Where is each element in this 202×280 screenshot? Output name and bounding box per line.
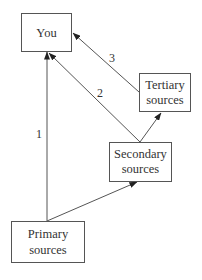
edge-secondary-to-you: 2 <box>49 53 140 142</box>
edge-label-3: 3 <box>109 51 115 65</box>
node-primary-label-line1: Primary <box>28 227 69 241</box>
node-tertiary-sources: Tertiary sources <box>140 74 191 112</box>
edge-secondary-to-tertiary <box>140 113 161 142</box>
node-you: You <box>22 14 72 52</box>
edge-label-1: 1 <box>36 127 42 141</box>
node-you-label: You <box>36 26 57 40</box>
node-tertiary-label-line2: sources <box>146 93 184 107</box>
node-tertiary-label-line1: Tertiary <box>145 78 185 92</box>
node-secondary-label-line2: sources <box>122 162 160 176</box>
edge-label-2: 2 <box>97 86 103 100</box>
edge-tertiary-to-you: 3 <box>73 33 139 92</box>
edge-primary-to-you: 1 <box>36 52 47 221</box>
sources-diagram: 1 2 3 You Tertiary sources Secondary sou… <box>0 0 202 280</box>
node-secondary-sources: Secondary sources <box>110 143 172 182</box>
node-secondary-label-line1: Secondary <box>114 147 168 161</box>
node-primary-label-line2: sources <box>29 243 67 257</box>
edge-primary-to-secondary <box>47 182 137 221</box>
node-primary-sources: Primary sources <box>12 222 85 263</box>
